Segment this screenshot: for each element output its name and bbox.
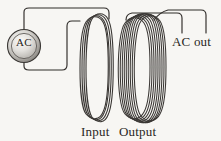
input-coil-label: Input <box>81 124 109 140</box>
transformer-diagram: AC Input Output AC out <box>0 0 221 141</box>
output-coil <box>118 14 166 123</box>
diagram-canvas <box>0 0 221 141</box>
ac-source-label: AC <box>8 36 40 48</box>
ac-out-label: AC out <box>172 34 211 50</box>
input-coil <box>80 14 113 122</box>
output-coil-label: Output <box>119 124 156 140</box>
